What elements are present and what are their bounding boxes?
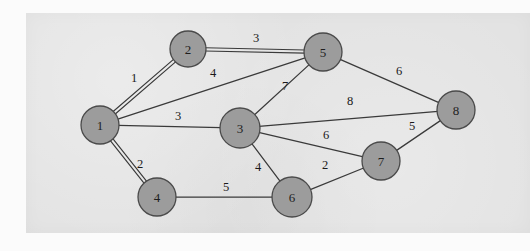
edge-weight-3-7: 6 xyxy=(323,128,329,142)
edge-2-5 xyxy=(205,48,305,53)
edge-weight-4-6: 5 xyxy=(223,180,229,194)
edge-weight-1-3: 3 xyxy=(175,109,181,123)
graph-node-4[interactable]: 4 xyxy=(138,178,176,216)
edge-7-8 xyxy=(396,120,441,151)
figure-page: 1432376865425 12345678 xyxy=(0,0,530,251)
node-label-5: 5 xyxy=(320,45,327,60)
edge-weight-3-6: 4 xyxy=(255,160,262,174)
edge-stroke xyxy=(310,168,365,190)
graph-canvas: 1432376865425 12345678 xyxy=(0,0,530,251)
graph-node-3[interactable]: 3 xyxy=(220,108,260,148)
graph-node-7[interactable]: 7 xyxy=(362,142,400,180)
edge-weight-2-5: 3 xyxy=(253,31,259,45)
edge-weight-3-8: 8 xyxy=(347,94,353,108)
edge-stroke xyxy=(396,120,441,151)
edge-stroke xyxy=(339,59,439,103)
graph-node-8[interactable]: 8 xyxy=(437,91,475,129)
edge-weight-1-2: 1 xyxy=(131,71,137,85)
edge-weight-3-5: 7 xyxy=(282,79,288,93)
edge-weight-1-5: 4 xyxy=(210,66,217,80)
node-label-6: 6 xyxy=(289,190,296,205)
edge-stroke xyxy=(259,132,364,157)
edge-weight-7-8: 5 xyxy=(409,119,415,133)
node-label-8: 8 xyxy=(453,103,460,118)
edge-stroke xyxy=(205,51,305,53)
node-label-4: 4 xyxy=(154,190,161,205)
edge-weight-5-8: 6 xyxy=(396,64,402,78)
edge-5-8 xyxy=(339,59,439,103)
edge-3-7 xyxy=(259,132,364,157)
node-label-7: 7 xyxy=(378,154,385,169)
edge-weight-1-4: 2 xyxy=(137,157,143,171)
graph-node-5[interactable]: 5 xyxy=(304,33,342,71)
nodes-layer: 12345678 xyxy=(81,31,475,217)
edge-weight-6-7: 2 xyxy=(322,158,328,172)
node-label-1: 1 xyxy=(97,118,104,133)
edge-1-2 xyxy=(113,59,177,115)
node-label-3: 3 xyxy=(237,121,244,136)
node-label-2: 2 xyxy=(185,42,192,57)
edge-stroke xyxy=(118,125,221,127)
graph-node-1[interactable]: 1 xyxy=(81,106,119,144)
graph-node-6[interactable]: 6 xyxy=(272,177,312,217)
edge-1-3 xyxy=(118,125,221,127)
edge-stroke xyxy=(205,48,305,50)
graph-node-2[interactable]: 2 xyxy=(170,31,206,67)
edge-stroke xyxy=(115,61,177,114)
edge-6-7 xyxy=(310,168,365,190)
